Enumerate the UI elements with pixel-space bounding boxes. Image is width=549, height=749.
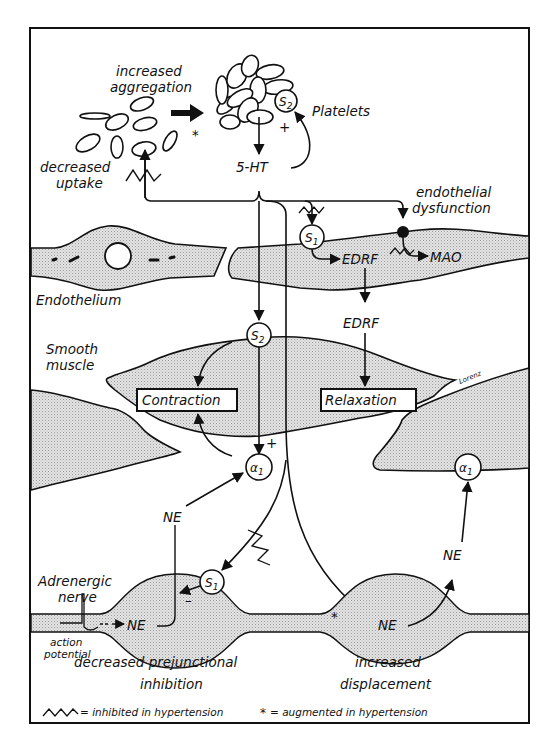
edrf-released-label: EDRF [343,315,379,331]
smooth-muscle-label-line2: muscle [46,357,94,373]
aggregation-arrow-icon [171,104,204,122]
endothelium-label: Endothelium [36,292,121,308]
alpha-plus-sign: + [266,435,277,451]
adrenergic-nerve-label-line1: Adrenergic [37,573,112,589]
uptake-label-line1: decreased [40,159,111,175]
dysfunction-label-line2: dysfunction [412,200,491,216]
presyn-zigzag-icon [248,530,270,565]
platelet-plus-sign: + [279,119,290,135]
legend-zigzag-icon [43,709,78,716]
adrenergic-nerve-label-line2: nerve [58,589,97,605]
caption-left-line1: decreased prejunctional [74,654,237,670]
aggregation-label-line2: aggregation [110,79,192,95]
relaxation-label: Relaxation [325,392,397,408]
ne-right-asterisk: * [331,609,338,625]
ne-right-varicosity: NE [378,617,397,633]
serotonin-hypertension-diagram: * increased aggregation S2 + Platelets 5… [0,0,549,749]
ne-right-released: NE [443,547,462,563]
inhibition-minus-sign: – [185,592,192,608]
aggregation-asterisk: * [192,127,199,143]
free-platelets [73,94,180,158]
mao-label: MAO [430,249,462,265]
dysfunction-label-line1: endothelial [416,184,492,200]
uptake-label-line2: uptake [56,175,103,191]
5ht-label: 5-HT [236,159,270,175]
legend-asterisk-icon: * [260,706,266,720]
endothelial-nucleus [105,243,131,269]
ne-left-varicosity: NE [127,617,146,633]
ne-left-released: NE [163,509,182,525]
uptake-zigzag-icon [126,170,161,181]
caption-right-line2: displacement [340,676,432,692]
caption-left-line2: inhibition [140,676,203,692]
aggregation-label-line1: increased [116,63,182,79]
smooth-muscle-label-line1: Smooth [46,341,98,357]
contraction-label: Contraction [142,392,221,408]
legend-inhibited-text: = inhibited in hypertension [80,706,223,718]
legend-augmented-text: = augmented in hypertension [270,706,428,718]
platelets-label: Platelets [312,103,370,119]
caption-right-line1: increased [355,654,421,670]
action-potential-label-line1: action [50,636,82,648]
dysfunction-dot-icon [397,226,409,238]
endothelial-cell-right [229,229,529,290]
edrf-inner-label: EDRF [342,251,378,267]
